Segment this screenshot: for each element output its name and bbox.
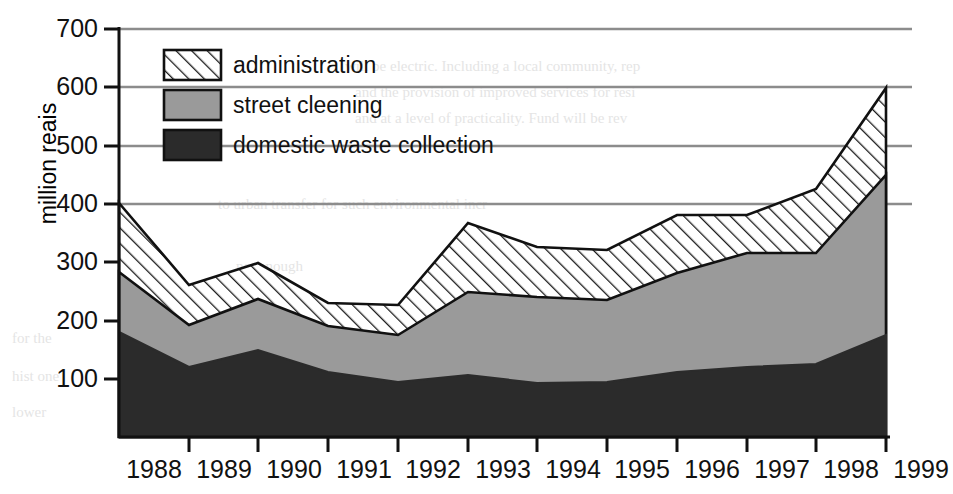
legend-swatch-administration: [164, 50, 221, 80]
y-tick-label-200: 200: [28, 306, 98, 335]
x-tick-label-1997: 1997: [742, 455, 822, 484]
x-tick-label-1999: 1999: [881, 455, 953, 484]
x-tick-label-1998: 1998: [811, 455, 891, 484]
legend-swatch-street-cleening: [164, 90, 221, 120]
y-tick-label-700: 700: [28, 14, 98, 43]
y-tick-label-100: 100: [28, 364, 98, 393]
x-tick-label-1996: 1996: [672, 455, 752, 484]
x-tick-label-1991: 1991: [324, 455, 404, 484]
x-tick-label-1988: 1988: [114, 455, 194, 484]
y-tick-label-600: 600: [28, 72, 98, 101]
x-tick-label-1993: 1993: [463, 455, 543, 484]
legend-label-domestic-waste-collection: domestic waste collection: [233, 132, 494, 159]
x-tick-label-1990: 1990: [254, 455, 334, 484]
y-tick-label-400: 400: [28, 189, 98, 218]
x-tick-label-1989: 1989: [184, 455, 264, 484]
legend-swatch-domestic-waste-collection: [164, 130, 221, 160]
y-tick-marks: [104, 29, 119, 379]
y-tick-label-500: 500: [28, 131, 98, 160]
x-tick-label-1995: 1995: [602, 455, 682, 484]
legend-label-administration: administration: [233, 52, 376, 79]
legend-label-street-cleening: street cleening: [233, 92, 383, 119]
y-tick-label-300: 300: [28, 247, 98, 276]
legend-swatches: [164, 50, 221, 160]
x-tick-label-1992: 1992: [393, 455, 473, 484]
x-tick-marks: [189, 437, 886, 452]
x-tick-label-1994: 1994: [533, 455, 613, 484]
